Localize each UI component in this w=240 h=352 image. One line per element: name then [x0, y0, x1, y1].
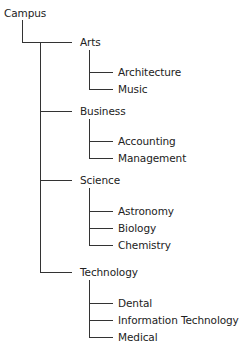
leaf-connector	[89, 337, 113, 338]
leaf-connector	[89, 89, 113, 90]
leaf-connector	[89, 211, 113, 212]
branch-node: Science	[80, 174, 120, 186]
leaf-connector	[89, 72, 113, 73]
leaf-node: Astronomy	[118, 205, 174, 217]
branch-connector	[40, 272, 72, 273]
sub-connector	[89, 280, 90, 338]
leaf-node: Accounting	[118, 135, 176, 147]
leaf-node: Dental	[118, 297, 152, 309]
leaf-connector	[89, 320, 113, 321]
branch-node: Technology	[80, 266, 138, 278]
sub-connector	[89, 50, 90, 90]
leaf-connector	[89, 303, 113, 304]
leaf-node: Music	[118, 83, 147, 95]
leaf-node: Management	[118, 152, 186, 164]
branch-connector	[40, 180, 72, 181]
leaf-node: Chemistry	[118, 239, 171, 251]
sub-connector	[89, 119, 90, 159]
leaf-connector	[89, 158, 113, 159]
trunk-line	[40, 42, 41, 273]
branch-connector	[22, 42, 72, 43]
leaf-node: Information Technology	[118, 314, 239, 326]
leaf-node: Medical	[118, 331, 158, 343]
leaf-node: Biology	[118, 222, 156, 234]
branch-node: Arts	[80, 36, 101, 48]
leaf-connector	[89, 228, 113, 229]
sub-connector	[89, 188, 90, 246]
root-connector	[22, 20, 23, 43]
branch-node: Business	[80, 105, 126, 117]
root-node: Campus	[4, 7, 46, 19]
leaf-connector	[89, 245, 113, 246]
leaf-node: Architecture	[118, 66, 181, 78]
leaf-connector	[89, 141, 113, 142]
branch-connector	[40, 111, 72, 112]
